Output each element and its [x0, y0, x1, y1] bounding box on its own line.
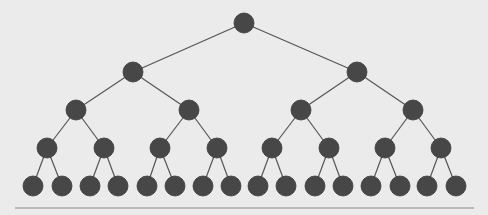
tree-leaf-node — [52, 176, 72, 196]
tree-node — [207, 138, 227, 158]
tree-diagram — [0, 0, 488, 215]
tree-leaf-node — [417, 176, 437, 196]
tree-edge — [133, 23, 244, 72]
tree-node — [291, 100, 311, 120]
tree-node — [37, 138, 57, 158]
tree-leaf-node — [390, 176, 410, 196]
tree-leaf-node — [221, 176, 241, 196]
tree-node — [319, 138, 339, 158]
tree-node — [150, 138, 170, 158]
tree-nodes — [23, 13, 466, 196]
tree-node — [375, 138, 395, 158]
tree-root-node — [234, 13, 254, 33]
tree-leaf-node — [108, 176, 128, 196]
tree-node — [66, 100, 86, 120]
tree-leaf-node — [80, 176, 100, 196]
tree-leaf-node — [137, 176, 157, 196]
tree-node — [431, 138, 451, 158]
binary-tree-canvas — [0, 0, 488, 215]
tree-leaf-node — [333, 176, 353, 196]
tree-edges — [33, 23, 456, 186]
tree-node — [179, 100, 199, 120]
tree-leaf-node — [193, 176, 213, 196]
tree-leaf-node — [23, 176, 43, 196]
tree-node — [347, 62, 367, 82]
tree-edge — [244, 23, 357, 72]
tree-leaf-node — [361, 176, 381, 196]
tree-node — [262, 138, 282, 158]
tree-leaf-node — [276, 176, 296, 196]
tree-leaf-node — [165, 176, 185, 196]
tree-leaf-node — [446, 176, 466, 196]
tree-leaf-node — [305, 176, 325, 196]
tree-leaf-node — [248, 176, 268, 196]
tree-node — [123, 62, 143, 82]
tree-node — [94, 138, 114, 158]
tree-node — [403, 100, 423, 120]
